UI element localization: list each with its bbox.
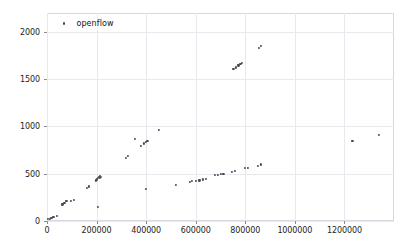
y-axis-tick: [44, 32, 47, 33]
x-axis-tick-label: 200000: [82, 226, 112, 235]
x-axis-tick-label: 0: [45, 226, 50, 235]
gridline-horizontal: [47, 32, 394, 33]
x-axis-tick: [196, 221, 197, 224]
x-axis-tick: [295, 221, 296, 224]
data-point: [198, 179, 200, 181]
data-point: [241, 62, 243, 64]
gridline-vertical: [295, 13, 296, 221]
data-point: [97, 206, 99, 208]
gridline-vertical: [196, 13, 197, 221]
data-point: [232, 68, 234, 70]
x-axis-tick-label: 1000000: [277, 226, 312, 235]
x-axis-tick-label: 1200000: [327, 226, 362, 235]
data-point: [126, 155, 128, 157]
x-axis-tick-label: 600000: [181, 226, 211, 235]
legend-marker-icon: [63, 22, 65, 24]
x-axis-tick: [344, 221, 345, 224]
plot-frame-right: [393, 13, 394, 221]
data-point: [231, 171, 233, 173]
y-axis-tick-label: 2000: [0, 27, 40, 36]
x-axis-tick-label: 800000: [230, 226, 260, 235]
data-point: [143, 142, 145, 144]
x-axis-tick: [146, 221, 147, 224]
data-point: [257, 165, 259, 167]
data-point: [99, 175, 101, 177]
y-axis-tick-label: 1000: [0, 122, 40, 131]
x-axis-tick-label: 400000: [131, 226, 161, 235]
data-point: [65, 200, 67, 202]
data-point: [260, 45, 262, 47]
data-point: [134, 138, 136, 140]
y-axis-tick: [44, 221, 47, 222]
data-point: [205, 178, 207, 180]
gridline-vertical: [245, 13, 246, 221]
x-axis-tick: [97, 221, 98, 224]
y-axis-tick-label: 0: [0, 217, 40, 226]
data-point: [146, 140, 148, 142]
data-point: [214, 174, 216, 176]
gridline-horizontal: [47, 79, 394, 80]
data-point: [73, 199, 75, 201]
data-point: [61, 203, 63, 205]
data-point: [88, 185, 90, 187]
y-axis-tick: [44, 126, 47, 127]
data-point: [235, 66, 237, 68]
data-point: [125, 157, 127, 159]
plot-frame-top: [47, 13, 394, 14]
data-point: [234, 170, 236, 172]
data-point: [351, 140, 353, 142]
data-point: [52, 216, 54, 218]
data-point: [378, 134, 380, 136]
x-axis-tick: [245, 221, 246, 224]
scatter-chart-figure: openflow 0200000400000600000800000100000…: [0, 0, 417, 252]
plot-area: [47, 13, 394, 221]
data-point: [191, 180, 193, 182]
chart-legend: openflow: [56, 17, 118, 30]
gridline-vertical: [344, 13, 345, 221]
data-point: [158, 129, 160, 131]
data-point: [56, 215, 58, 217]
gridline-vertical: [97, 13, 98, 221]
data-point: [70, 200, 72, 202]
data-point: [258, 47, 260, 49]
y-axis-tick-label: 1500: [0, 75, 40, 84]
gridline-vertical: [146, 13, 147, 221]
gridline-vertical: [47, 13, 48, 221]
data-point: [175, 184, 177, 186]
data-point: [63, 201, 65, 203]
data-point: [247, 166, 249, 168]
y-axis-tick-label: 500: [0, 169, 40, 178]
legend-label-openflow: openflow: [76, 19, 113, 28]
x-axis-tick: [47, 221, 48, 224]
data-point: [260, 163, 262, 165]
gridline-horizontal: [47, 126, 394, 127]
y-axis-tick: [44, 174, 47, 175]
y-axis-tick: [44, 79, 47, 80]
gridline-horizontal: [47, 221, 394, 222]
data-point: [140, 145, 142, 147]
